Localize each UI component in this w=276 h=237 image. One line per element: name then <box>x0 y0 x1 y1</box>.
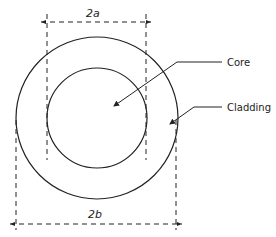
fiber-cross-section-diagram: 2a 2b Core Cladding <box>0 0 276 237</box>
core-circle <box>47 68 147 168</box>
cladding-diameter-dimension: 2b <box>10 120 182 230</box>
cladding-diameter-label: 2b <box>88 208 102 221</box>
core-diameter-dimension: 2a <box>41 7 151 160</box>
core-callout: Core <box>114 57 250 106</box>
core-diameter-label: 2a <box>86 7 100 20</box>
core-label: Core <box>227 57 250 68</box>
cladding-callout: Cladding <box>170 102 271 124</box>
cladding-label: Cladding <box>227 102 271 113</box>
cladding-circle <box>16 37 178 199</box>
